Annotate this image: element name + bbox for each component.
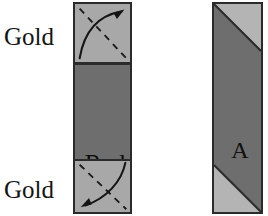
- curved-arrow-path: [80, 11, 122, 58]
- arrowhead-up-right: [113, 10, 124, 19]
- diagonal-band-shape: [214, 4, 261, 212]
- layered-strip: Red: [73, 2, 132, 214]
- segment-gold-top: [73, 2, 132, 64]
- gold-bottom-annotation: [75, 161, 130, 212]
- curved-arrow-path: [85, 163, 125, 206]
- dashed-diagonal-line: [80, 9, 127, 59]
- gold-top-annotation: [75, 4, 130, 62]
- segment-gold-bottom: [73, 159, 132, 214]
- diagonal-band-strip: A: [212, 2, 263, 214]
- segment-red: Red: [73, 63, 132, 161]
- figure-canvas: Gold Gold Red: [0, 0, 268, 216]
- arrowhead-down-left: [81, 198, 92, 207]
- label-gold-bottom: Gold: [4, 177, 54, 202]
- label-a: A: [214, 138, 263, 162]
- label-gold-top: Gold: [4, 24, 54, 49]
